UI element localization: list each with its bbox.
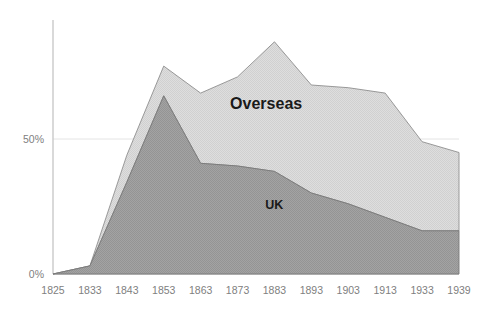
- x-tick-label-1883: 1883: [263, 284, 287, 296]
- chart-canvas: 0%50% 1825183318431853186318731883189319…: [0, 0, 499, 313]
- x-tick-label-1939: 1939: [447, 284, 471, 296]
- y-tick-label-50: 50%: [23, 133, 44, 145]
- x-tick-label-1933: 1933: [410, 284, 434, 296]
- x-tick-label-1833: 1833: [78, 284, 102, 296]
- series-label-uk: UK: [265, 198, 283, 212]
- series-label-overseas: Overseas: [230, 95, 302, 112]
- x-tick-label-1863: 1863: [189, 284, 213, 296]
- x-axis-tick-labels: 1825183318431853186318731883189319031913…: [41, 284, 471, 296]
- x-tick-label-1825: 1825: [41, 284, 65, 296]
- x-tick-label-1853: 1853: [152, 284, 176, 296]
- x-tick-label-1843: 1843: [115, 284, 139, 296]
- x-tick-label-1913: 1913: [374, 284, 398, 296]
- area-chart: 0%50% 1825183318431853186318731883189319…: [0, 0, 499, 313]
- y-tick-label-0: 0%: [29, 268, 44, 280]
- y-axis-tick-labels: 0%50%: [23, 133, 44, 280]
- x-tick-label-1903: 1903: [337, 284, 361, 296]
- x-tick-label-1873: 1873: [226, 284, 250, 296]
- x-tick-label-1893: 1893: [300, 284, 324, 296]
- series-areas: [53, 42, 459, 274]
